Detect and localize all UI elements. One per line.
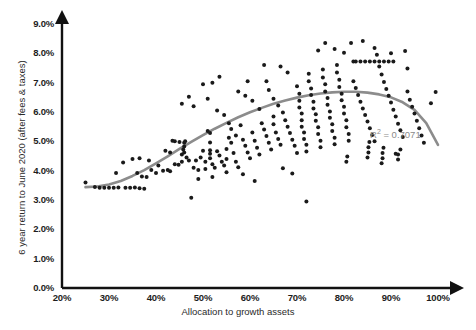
data-point <box>302 137 306 141</box>
data-point <box>396 153 400 157</box>
data-point <box>382 60 386 64</box>
data-point <box>391 108 395 112</box>
data-point <box>138 186 142 190</box>
data-point <box>192 104 196 108</box>
data-point <box>293 144 297 148</box>
data-point <box>415 119 419 123</box>
data-point <box>311 106 315 110</box>
data-point <box>276 137 280 141</box>
data-point <box>222 163 226 167</box>
data-point <box>354 86 358 90</box>
data-point <box>217 75 221 79</box>
data-point <box>269 148 273 152</box>
data-point <box>333 136 337 140</box>
data-point <box>361 39 365 43</box>
data-point <box>203 167 207 171</box>
data-point <box>241 172 245 176</box>
data-point <box>279 65 283 69</box>
data-point <box>340 98 344 102</box>
data-point <box>142 187 146 191</box>
data-point <box>410 105 414 109</box>
data-point <box>297 92 301 96</box>
data-point <box>300 111 304 115</box>
data-point <box>366 119 370 123</box>
data-point <box>215 109 219 113</box>
data-point <box>297 106 301 110</box>
data-point <box>434 90 438 94</box>
data-point <box>178 140 182 144</box>
data-point <box>381 151 385 155</box>
data-point <box>107 186 111 190</box>
x-tick-label: 20% <box>38 292 86 303</box>
data-point <box>408 98 412 102</box>
data-point <box>323 41 327 45</box>
data-point <box>102 186 106 190</box>
data-point <box>391 60 395 64</box>
data-point <box>229 141 233 145</box>
data-point <box>384 87 388 91</box>
data-point <box>405 67 409 71</box>
data-point <box>229 127 233 131</box>
data-point <box>274 131 278 135</box>
data-point <box>253 139 257 143</box>
data-point <box>381 146 385 150</box>
x-tick-label: 70% <box>273 292 321 303</box>
data-point <box>387 60 391 64</box>
x-tick-label: 40% <box>132 292 180 303</box>
x-tick-label: 100% <box>414 292 462 303</box>
data-point <box>135 171 139 175</box>
data-point <box>326 103 330 107</box>
data-point <box>358 60 362 64</box>
data-point <box>201 82 205 86</box>
data-point <box>220 160 224 164</box>
data-point <box>366 150 370 154</box>
data-point <box>264 134 268 138</box>
data-point <box>210 162 214 166</box>
data-point <box>377 65 381 69</box>
data-point <box>344 160 348 164</box>
data-point <box>84 180 88 184</box>
data-point <box>366 155 370 159</box>
y-tick-label: 9.0% <box>8 18 54 29</box>
data-point <box>210 81 214 85</box>
data-point <box>215 149 219 153</box>
data-point <box>333 47 337 51</box>
data-point <box>199 155 203 159</box>
data-point <box>389 101 393 105</box>
data-point <box>342 111 346 115</box>
data-point <box>260 121 264 125</box>
data-point <box>239 123 243 127</box>
data-point <box>422 141 426 145</box>
data-point <box>330 129 334 133</box>
data-point <box>309 87 313 91</box>
data-point <box>351 79 355 83</box>
data-point <box>319 145 323 149</box>
r-squared-annotation: R2 = 0.7071 <box>370 128 421 140</box>
data-point <box>288 131 292 135</box>
data-point <box>161 169 165 173</box>
data-point <box>307 72 311 76</box>
data-point <box>382 80 386 84</box>
data-point <box>257 107 261 111</box>
data-point <box>300 125 304 129</box>
data-point <box>429 101 433 105</box>
data-point <box>345 155 349 159</box>
x-tick-label: 50% <box>179 292 227 303</box>
data-point <box>342 105 346 109</box>
data-point <box>286 125 290 129</box>
data-point <box>154 171 158 175</box>
x-tick-label: 30% <box>85 292 133 303</box>
data-point <box>168 169 172 173</box>
data-point <box>328 116 332 120</box>
data-point <box>295 151 299 155</box>
data-point <box>377 60 381 64</box>
data-point <box>297 99 301 103</box>
data-point <box>189 196 193 200</box>
data-point <box>396 122 400 126</box>
x-axis-title: Allocation to growth assets <box>0 306 476 317</box>
data-point <box>333 142 337 146</box>
data-point <box>363 113 367 117</box>
x-tick-label: 60% <box>226 292 274 303</box>
data-point <box>138 156 142 160</box>
data-point <box>98 186 102 190</box>
